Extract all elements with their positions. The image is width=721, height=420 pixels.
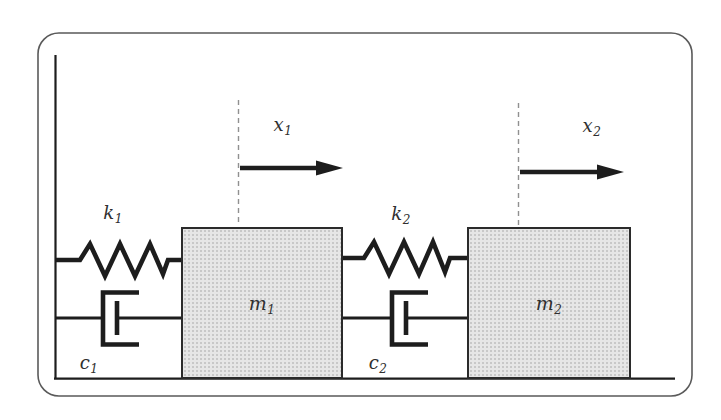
x2-arrowhead-icon	[597, 165, 624, 180]
x2-direction-arrow	[520, 165, 624, 180]
x1-direction-arrow	[240, 161, 343, 176]
spring1-label: k1	[103, 202, 123, 223]
mass2-label-base: m	[536, 292, 555, 314]
spring2-label: k2	[391, 203, 411, 224]
damper-c1	[55, 293, 182, 345]
damper2-label-sub: 2	[379, 362, 387, 376]
x1-label: x1	[274, 114, 293, 135]
spring1-label-base: k	[103, 202, 114, 223]
x2-label: x2	[583, 115, 602, 136]
spring-k1	[56, 244, 182, 276]
damper-c2	[342, 293, 468, 345]
damper2-label: c2	[369, 352, 388, 373]
mass1-label: m1	[249, 292, 276, 314]
spring-k2	[342, 242, 468, 274]
damper1-label: c1	[80, 352, 99, 373]
mass2-block: m2	[467, 227, 631, 379]
two-mass-spring-damper-diagram: m1 m2 x1 x2 k1 k2 c1 c2	[0, 0, 721, 420]
x2-label-base: x	[583, 115, 594, 136]
x2-label-sub: 2	[593, 125, 601, 139]
spring2-label-base: k	[391, 203, 402, 224]
mass1-block: m1	[181, 227, 343, 379]
spring2-label-sub: 2	[403, 213, 411, 227]
spring1-label-sub: 1	[115, 212, 123, 226]
x1-label-sub: 1	[284, 124, 292, 138]
damper2-label-base: c	[369, 352, 380, 373]
mass1-label-base: m	[249, 292, 268, 314]
mass2-label: m2	[536, 292, 563, 314]
x1-label-base: x	[274, 114, 285, 135]
damper1-label-sub: 1	[90, 362, 98, 376]
mass1-label-sub: 1	[267, 303, 275, 317]
damper1-label-base: c	[80, 352, 91, 373]
x1-arrowhead-icon	[316, 161, 343, 176]
mass2-label-sub: 2	[554, 303, 562, 317]
